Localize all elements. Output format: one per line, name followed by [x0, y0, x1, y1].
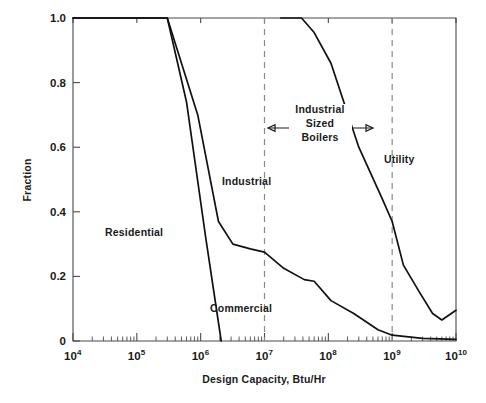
industrial-sized-boilers-line2: Sized	[306, 117, 334, 129]
y-tick-label: 0	[60, 335, 66, 347]
x-tick-label-exponent: 7	[269, 348, 274, 357]
x-tick-label-base: 10	[383, 350, 396, 362]
region-annotations: Residential Commercial Industrial Utilit…	[105, 103, 415, 314]
x-tick-label-exponent: 4	[77, 348, 82, 357]
x-axis-title-text: Design Capacity, Btu/Hr	[202, 373, 325, 385]
x-axis-title: Design Capacity, Btu/Hr	[202, 373, 325, 385]
y-tick-labels: 1.0 0.8 0.6 0.4 0.2 0	[50, 12, 67, 347]
y-tick-label: 1.0	[50, 12, 66, 24]
curve-residential	[73, 18, 221, 341]
x-tick-label-exponent: 9	[396, 348, 401, 357]
chart-figure: 1.0 0.8 0.6 0.4 0.2 0 Fraction 104105106…	[0, 0, 486, 403]
x-tick-label-base: 10	[192, 350, 205, 362]
x-tick-label-base: 10	[256, 350, 269, 362]
y-tick-label: 0.4	[50, 206, 67, 218]
utility-label: Utility	[384, 153, 415, 165]
chart-canvas: 1.0 0.8 0.6 0.4 0.2 0 Fraction 104105106…	[0, 0, 486, 403]
x-tick-label-base: 10	[64, 350, 77, 362]
industrial-sized-boilers-line3: Boilers	[302, 131, 339, 143]
industrial-sized-boilers-line1: Industrial	[295, 103, 344, 115]
residential-label: Residential	[105, 226, 163, 238]
y-tick-label: 0.8	[50, 77, 67, 89]
x-tick-label-exponent: 6	[205, 348, 210, 357]
y-axis-ticks	[73, 18, 80, 341]
industrial-label: Industrial	[222, 175, 271, 187]
commercial-label: Commercial	[210, 302, 272, 314]
x-tick-label-base: 10	[445, 350, 458, 362]
x-tick-label-exponent: 5	[141, 348, 146, 357]
curve-industrial-utility	[281, 18, 456, 320]
x-tick-labels: 1041051061071081091010	[64, 348, 467, 362]
y-axis-title: Fraction	[21, 158, 33, 201]
y-tick-label: 0.2	[50, 270, 66, 282]
x-tick-label-base: 10	[128, 350, 141, 362]
x-tick-label-base: 10	[319, 350, 332, 362]
x-tick-label-exponent: 10	[458, 348, 467, 357]
x-tick-label-exponent: 8	[332, 348, 337, 357]
y-axis-title-text: Fraction	[21, 158, 33, 201]
y-tick-label: 0.6	[50, 141, 66, 153]
